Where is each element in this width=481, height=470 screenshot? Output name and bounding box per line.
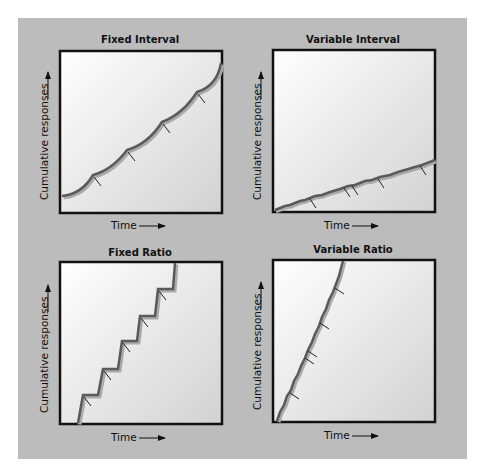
- panel-fixed-ratio: Fixed Ratio Cumulative responses Time: [38, 247, 222, 443]
- panel-fixed-interval: Fixed Interval Cumulative responses Time: [38, 34, 223, 231]
- x-axis-label: Time: [323, 429, 350, 441]
- panel-variable-interval: Variable Interval Cumulative responses T…: [251, 34, 436, 231]
- schedules-figure: Fixed Interval Cumulative responses Time…: [0, 0, 481, 470]
- x-axis-label: Time: [110, 219, 137, 231]
- y-axis-label: Cumulative responses: [251, 294, 263, 410]
- y-axis-label: Cumulative responses: [38, 297, 50, 413]
- panel-title: Variable Ratio: [313, 244, 393, 255]
- x-axis-label: Time: [110, 431, 137, 443]
- panel-title: Fixed Interval: [101, 34, 179, 45]
- panel-variable-ratio: Variable Ratio Cumulative responses Time: [251, 244, 435, 441]
- y-axis-label: Cumulative responses: [38, 84, 50, 200]
- panel-title: Fixed Ratio: [108, 247, 172, 258]
- panel-title: Variable Interval: [306, 34, 400, 45]
- x-axis-label: Time: [323, 219, 350, 231]
- y-axis-label: Cumulative responses: [251, 84, 263, 200]
